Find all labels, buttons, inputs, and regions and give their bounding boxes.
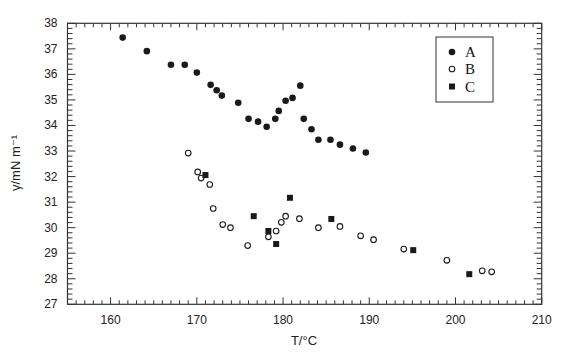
y-tick-label: 37 bbox=[44, 42, 58, 56]
y-tick-label: 35 bbox=[44, 93, 58, 107]
data-point bbox=[228, 225, 234, 231]
data-point bbox=[358, 233, 364, 239]
data-point bbox=[207, 182, 213, 188]
scatter-chart: 160170180190200210 272829303132333435363… bbox=[0, 0, 568, 363]
data-point bbox=[245, 116, 252, 123]
data-point bbox=[337, 224, 343, 230]
y-tick-label: 30 bbox=[44, 221, 58, 235]
data-point bbox=[289, 95, 296, 102]
data-point bbox=[350, 145, 357, 152]
data-point bbox=[220, 222, 226, 228]
data-point bbox=[328, 216, 334, 222]
data-point bbox=[235, 99, 242, 106]
data-point bbox=[255, 118, 262, 125]
x-tick-label: 210 bbox=[532, 313, 552, 327]
data-point bbox=[283, 213, 289, 219]
data-point bbox=[287, 195, 293, 201]
data-point bbox=[210, 206, 216, 212]
x-tick-label: 190 bbox=[359, 313, 379, 327]
data-point bbox=[275, 108, 282, 115]
data-point bbox=[219, 92, 226, 99]
data-point bbox=[401, 246, 407, 252]
y-tick-label: 38 bbox=[44, 16, 58, 30]
y-tick-label: 27 bbox=[44, 297, 58, 311]
series-a bbox=[119, 34, 369, 156]
data-point bbox=[181, 61, 188, 68]
data-point bbox=[207, 82, 214, 89]
data-point bbox=[410, 247, 416, 253]
y-tick-label: 31 bbox=[44, 195, 58, 209]
legend-label-c: C bbox=[465, 79, 475, 95]
x-tick-label: 160 bbox=[101, 313, 121, 327]
data-point bbox=[245, 243, 251, 249]
x-tick-label: 170 bbox=[187, 313, 207, 327]
x-tick-label: 200 bbox=[445, 313, 465, 327]
data-point bbox=[185, 150, 191, 156]
data-point bbox=[194, 69, 201, 76]
data-point bbox=[327, 136, 334, 143]
filled-circle-icon bbox=[449, 49, 456, 56]
y-tick-label: 32 bbox=[44, 170, 58, 184]
data-point bbox=[363, 149, 370, 156]
data-point bbox=[119, 34, 126, 41]
data-point bbox=[273, 228, 279, 234]
data-point bbox=[337, 141, 344, 148]
data-point bbox=[479, 268, 485, 274]
data-point bbox=[213, 87, 220, 94]
y-tick-label: 29 bbox=[44, 246, 58, 260]
y-tick-label: 36 bbox=[44, 67, 58, 81]
data-point bbox=[315, 136, 322, 143]
data-point bbox=[144, 48, 151, 55]
y-tick-label: 28 bbox=[44, 272, 58, 286]
data-point bbox=[263, 123, 270, 130]
y-tick-label: 33 bbox=[44, 144, 58, 158]
data-point bbox=[272, 116, 279, 123]
data-point bbox=[316, 225, 322, 231]
legend: A B C bbox=[436, 37, 493, 102]
data-point bbox=[279, 219, 285, 225]
data-point bbox=[266, 234, 272, 240]
data-point bbox=[297, 216, 303, 222]
data-point bbox=[300, 116, 307, 123]
filled-square-icon bbox=[449, 84, 455, 90]
legend-label-b: B bbox=[465, 61, 475, 77]
data-point bbox=[489, 269, 495, 275]
data-point bbox=[251, 213, 257, 219]
y-axis-title: γ/mN m⁻¹ bbox=[8, 134, 23, 191]
data-point bbox=[444, 258, 450, 264]
x-tick-label: 180 bbox=[273, 313, 293, 327]
y-tick-label: 34 bbox=[44, 118, 58, 132]
open-circle-icon bbox=[449, 66, 455, 72]
data-point bbox=[265, 228, 271, 234]
data-point bbox=[202, 172, 208, 178]
data-point bbox=[297, 82, 304, 89]
data-point bbox=[371, 237, 377, 243]
series-b bbox=[185, 150, 494, 274]
x-axis-title: T/°C bbox=[291, 333, 317, 348]
legend-label-a: A bbox=[465, 44, 476, 60]
data-point bbox=[168, 61, 175, 68]
data-point bbox=[195, 169, 201, 175]
data-point bbox=[308, 126, 315, 133]
data-point bbox=[466, 271, 472, 277]
data-point bbox=[273, 241, 279, 247]
data-point bbox=[282, 97, 289, 104]
